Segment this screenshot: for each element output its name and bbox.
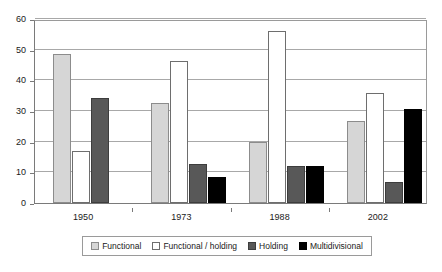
legend-label: Holding (259, 241, 288, 251)
legend-label: Multidivisional (310, 241, 363, 251)
bar (53, 54, 71, 203)
plot-area (34, 20, 427, 204)
bar (306, 166, 324, 203)
x-axis-tick-mark (231, 208, 232, 212)
bar (91, 98, 109, 203)
y-axis-tick-label: 40 (16, 76, 26, 85)
y-axis-tick-label: 50 (16, 46, 26, 55)
bar (208, 177, 226, 203)
bar (385, 182, 403, 203)
legend-swatch (299, 242, 307, 250)
legend-swatch (91, 242, 99, 250)
legend-label: Functional (102, 241, 141, 251)
bar (249, 142, 267, 203)
legend-swatch (152, 242, 160, 250)
legend-item: Functional / holding (152, 241, 237, 251)
bar (151, 103, 169, 203)
y-axis-tick-label: 60 (16, 15, 26, 24)
legend-item: Multidivisional (299, 241, 363, 251)
bar (170, 61, 188, 203)
x-axis-tick-mark (329, 208, 330, 212)
y-axis-tick-label: 20 (16, 138, 26, 147)
bar (404, 109, 422, 203)
bar (347, 121, 365, 203)
x-axis-tick-label: 1950 (73, 212, 93, 223)
bar (189, 164, 207, 203)
y-axis-tick-label: 10 (16, 168, 26, 177)
bar-chart: 0102030405060 1950197319882002 Functiona… (0, 0, 442, 272)
x-axis-tick-label: 1973 (171, 212, 191, 223)
x-axis-tick-mark (132, 208, 133, 212)
legend-item: Functional (91, 241, 141, 251)
x-axis: 1950197319882002 (34, 208, 427, 224)
chart-legend: FunctionalFunctional / holdingHoldingMul… (82, 236, 372, 256)
y-axis-tick-label: 30 (16, 107, 26, 116)
bar (287, 166, 305, 203)
legend-swatch (248, 242, 256, 250)
bars-layer (35, 21, 426, 203)
bar (72, 151, 90, 203)
y-axis-tick-label: 0 (21, 199, 26, 208)
gridline (35, 18, 426, 19)
x-axis-tick-label: 2002 (368, 212, 388, 223)
legend-item: Holding (248, 241, 288, 251)
bar (268, 31, 286, 203)
legend-label: Functional / holding (163, 241, 237, 251)
x-axis-tick-label: 1988 (270, 212, 290, 223)
y-axis-tick-mark (30, 204, 34, 205)
y-axis: 0102030405060 (0, 0, 34, 224)
bar (366, 93, 384, 203)
